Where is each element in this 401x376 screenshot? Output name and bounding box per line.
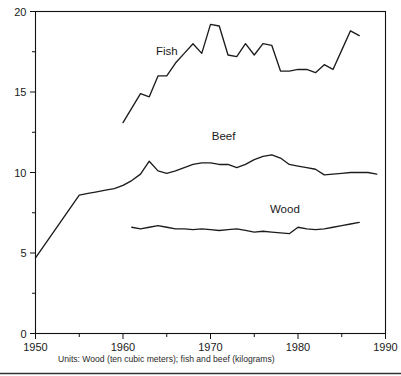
x-tick-label: 1950 [23,341,47,353]
line-chart: 19501960197019801990 05101520 FishBeefWo… [0,0,401,376]
x-tick-label: 1980 [286,341,310,353]
x-tick-label: 1970 [198,341,222,353]
y-tick-label: 0 [20,328,26,340]
y-tick-label: 20 [14,6,26,18]
chart-figure: 19501960197019801990 05101520 FishBeefWo… [0,0,401,376]
y-tick-label: 15 [14,86,26,98]
series-label-fish: Fish [156,45,178,57]
x-tick-label: 1990 [373,341,397,353]
chart-background [0,0,401,376]
y-tick-label: 10 [14,167,26,179]
y-tick-label: 5 [20,247,26,259]
series-label-beef: Beef [212,130,236,142]
chart-caption: Units: Wood (ten cubic meters); fish and… [58,354,275,364]
series-label-wood: Wood [270,203,300,215]
x-tick-label: 1960 [111,341,135,353]
